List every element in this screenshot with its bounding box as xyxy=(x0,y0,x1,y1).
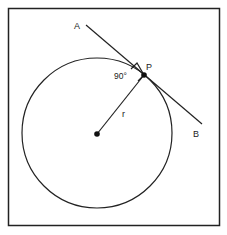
center-point xyxy=(94,131,100,137)
label-angle: 90° xyxy=(114,71,127,81)
label-b: B xyxy=(193,129,199,139)
label-a: A xyxy=(74,21,80,31)
radius-line xyxy=(97,75,144,134)
label-radius: r xyxy=(122,109,125,119)
label-p: P xyxy=(146,62,152,72)
tangent-circle-diagram: A B P r 90° xyxy=(0,0,227,235)
frame-border xyxy=(9,9,220,226)
tangent-point-p xyxy=(141,72,147,78)
